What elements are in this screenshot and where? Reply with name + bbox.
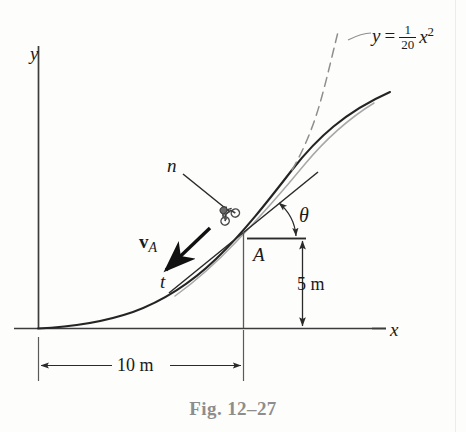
figure-container: y x n t vA θ A 5 m 10 m y = 1 20 x2 Fig.… xyxy=(0,0,466,432)
parabola-dashed-extension xyxy=(292,32,338,170)
equation-variable-base: x xyxy=(419,26,427,47)
curve-equation-label: y = 1 20 x2 xyxy=(372,22,434,50)
equation-lhs: y xyxy=(372,25,380,47)
tangent-axis-label: t xyxy=(160,272,165,291)
equation-variable-x: x2 xyxy=(419,24,434,48)
equation-exponent: 2 xyxy=(428,24,434,39)
road-edge-gray xyxy=(175,103,374,296)
page-edge-line xyxy=(455,0,456,432)
horizontal-dimension-label: 10 m xyxy=(117,356,154,374)
point-a-label: A xyxy=(253,245,265,264)
theta-angle-arc xyxy=(279,203,296,236)
theta-angle-label: θ xyxy=(299,205,309,225)
equation-fraction: 1 20 xyxy=(399,23,416,51)
x-axis-label: x xyxy=(390,320,398,339)
vertical-dimension-label: 5 m xyxy=(297,275,325,293)
equation-leader-line xyxy=(348,33,371,40)
y-axis-label: y xyxy=(30,44,38,63)
equation-numerator: 1 xyxy=(402,23,413,37)
figure-caption: Fig. 12–27 xyxy=(0,398,466,420)
velocity-symbol: v xyxy=(139,231,149,252)
velocity-subscript: A xyxy=(149,240,158,255)
equation-denominator: 20 xyxy=(399,37,416,52)
motorcycle-icon xyxy=(213,202,243,228)
velocity-vector-label: vA xyxy=(139,232,157,255)
equation-equals-sign: = xyxy=(384,25,395,47)
normal-axis-label: n xyxy=(167,156,177,175)
velocity-vector-arrow[interactable] xyxy=(166,228,210,270)
